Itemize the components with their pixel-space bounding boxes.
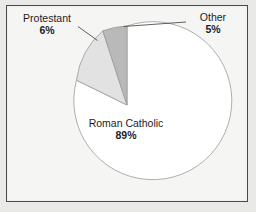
- slice-label-other: Other 5%: [182, 11, 244, 36]
- slice-label-roman-catholic: Roman Catholic 89%: [74, 117, 178, 142]
- slice-label-roman-catholic-percent: 89%: [74, 129, 178, 141]
- slice-label-protestant: Protestant 6%: [8, 12, 86, 37]
- slice-label-other-name: Other: [182, 11, 244, 23]
- slice-label-other-percent: 5%: [182, 23, 244, 35]
- pie-chart-figure: Protestant 6% Other 5% Roman Catholic 89…: [0, 0, 256, 212]
- slice-label-protestant-name: Protestant: [8, 12, 86, 24]
- slice-label-roman-catholic-name: Roman Catholic: [74, 117, 178, 129]
- slice-label-protestant-percent: 6%: [8, 24, 86, 36]
